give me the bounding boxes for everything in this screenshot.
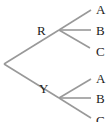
leaf-label-y-b: B (96, 92, 105, 105)
node-label-y: Y (39, 82, 48, 95)
leaf-label-r-c: C (96, 45, 105, 58)
leaf-label-y-a: A (96, 72, 105, 85)
tree-diagram: R Y A B C A B C (0, 0, 107, 122)
leaf-label-y-c: C (96, 114, 105, 122)
node-label-r: R (37, 24, 46, 37)
leaf-label-r-b: B (96, 24, 105, 37)
tree-lines (0, 0, 107, 122)
leaf-label-r-a: A (96, 3, 105, 16)
